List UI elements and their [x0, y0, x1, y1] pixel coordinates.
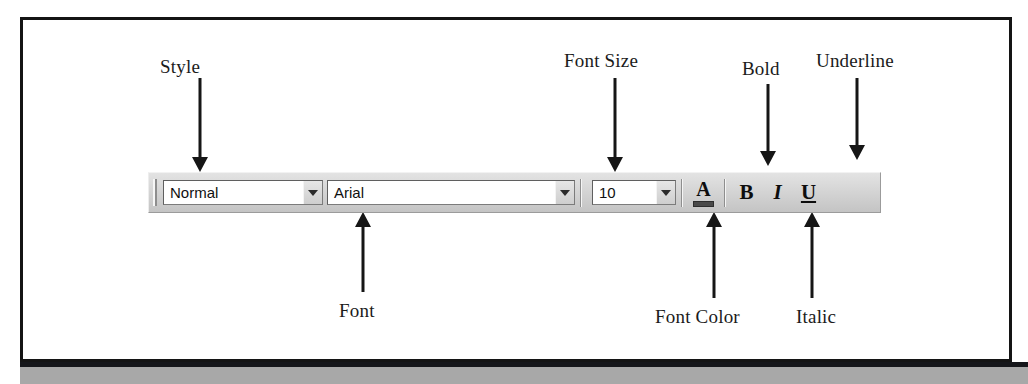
toolbar-separator — [580, 179, 582, 207]
callout-arrow-underline — [849, 78, 865, 160]
font-color-swatch — [693, 201, 714, 207]
formatting-toolbar: Normal Arial 10 A — [148, 172, 881, 213]
italic-icon: I — [773, 182, 781, 203]
callout-label-bold: Bold — [742, 58, 780, 80]
toolbar-separator — [724, 179, 726, 207]
page-left-gutter — [0, 0, 20, 384]
bold-icon: B — [739, 182, 753, 203]
callout-arrow-bold — [760, 84, 776, 166]
font-color-button[interactable]: A — [688, 178, 719, 208]
bold-button[interactable]: B — [731, 178, 762, 208]
callout-label-underline: Underline — [816, 50, 894, 72]
toolbar-drag-grip[interactable] — [153, 179, 157, 206]
underline-icon: U — [801, 182, 816, 203]
toolbar-separator — [681, 179, 683, 207]
italic-button[interactable]: I — [762, 178, 793, 208]
callout-label-font-size: Font Size — [564, 50, 638, 72]
callout-label-font: Font — [339, 300, 375, 322]
page-bottom-band — [20, 367, 1028, 384]
callout-label-font-color: Font Color — [655, 306, 740, 328]
style-combobox[interactable]: Normal — [163, 180, 323, 205]
figure-page: Style Font Size Bold Underline Font Font… — [0, 0, 1028, 384]
callout-label-italic: Italic — [796, 306, 836, 328]
callout-arrow-style — [192, 78, 208, 172]
style-combobox-dropdown-button[interactable] — [303, 181, 322, 204]
font-color-a-icon: A — [696, 179, 710, 199]
font-combobox-dropdown-button[interactable] — [555, 181, 574, 204]
callout-arrow-font — [355, 212, 371, 292]
callout-arrow-font-size — [607, 78, 623, 172]
style-combobox-value: Normal — [164, 185, 303, 200]
callout-arrow-font-color — [706, 212, 722, 298]
font-combobox-value: Arial — [328, 185, 555, 200]
callout-label-style: Style — [160, 56, 200, 78]
font-size-combobox-value: 10 — [593, 185, 656, 200]
chevron-down-icon — [661, 190, 671, 196]
font-size-combobox-dropdown-button[interactable] — [656, 181, 675, 204]
underline-button[interactable]: U — [793, 178, 824, 208]
chevron-down-icon — [560, 190, 570, 196]
callout-arrow-italic — [804, 212, 820, 298]
font-size-combobox[interactable]: 10 — [592, 180, 676, 205]
chevron-down-icon — [308, 190, 318, 196]
font-combobox[interactable]: Arial — [327, 180, 575, 205]
